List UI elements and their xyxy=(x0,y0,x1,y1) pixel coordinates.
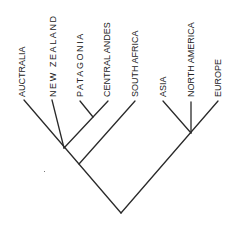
taxon-label-patagonia: PATAGONIA xyxy=(75,32,85,97)
stray-dot xyxy=(44,171,45,172)
taxon-label-central-andes: CENTRAL ANDES xyxy=(102,22,112,97)
branch-line xyxy=(80,101,93,117)
branch-line xyxy=(163,101,191,133)
branch-line xyxy=(121,101,218,213)
branch-line xyxy=(52,100,64,148)
taxon-label-europe: EUROPE xyxy=(213,59,223,97)
taxon-label-south-africa: SOUTH AFRICA xyxy=(130,30,140,97)
taxon-label-auctralia: AUCTRALIA xyxy=(17,46,27,97)
cladogram xyxy=(0,0,233,228)
taxon-label-asia: ASIA xyxy=(158,76,168,97)
taxon-label-north-america: NORTH AMERICA xyxy=(186,22,196,97)
branch-line xyxy=(24,100,121,213)
taxon-label-new-zealand: NEW ZEALAND xyxy=(48,14,58,97)
